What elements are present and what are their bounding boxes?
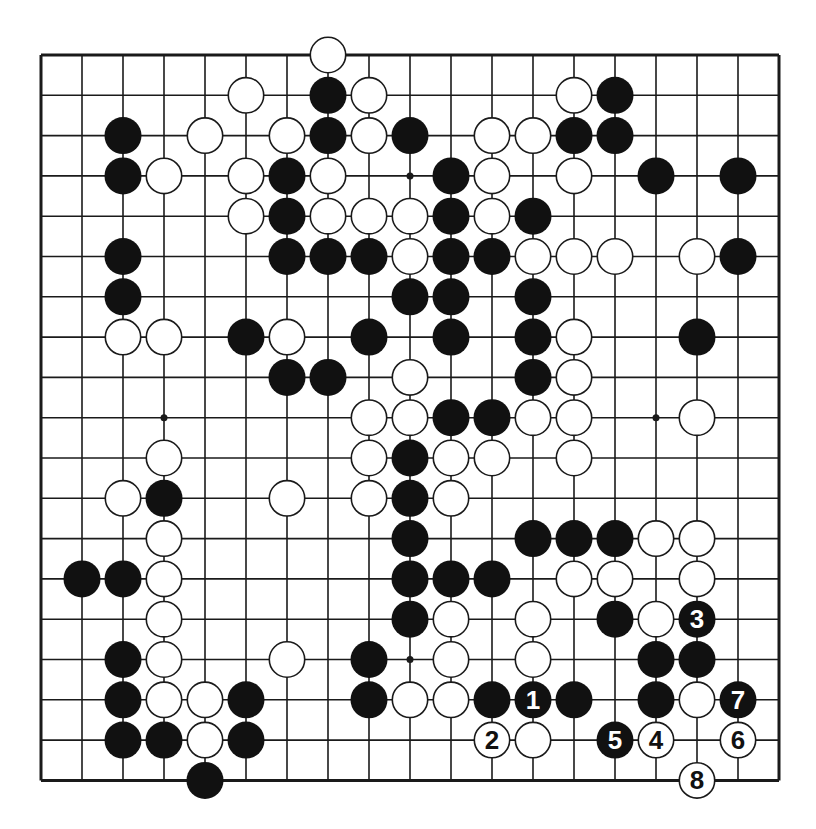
black-stone[interactable]: [105, 681, 142, 718]
white-stone[interactable]: [515, 239, 550, 274]
black-stone[interactable]: [433, 198, 470, 235]
black-stone[interactable]: [474, 560, 511, 597]
white-stone[interactable]: [433, 481, 468, 516]
white-stone[interactable]: [310, 199, 345, 234]
black-stone[interactable]: [392, 480, 429, 517]
black-stone[interactable]: [310, 117, 347, 154]
white-stone[interactable]: [474, 199, 509, 234]
black-stone[interactable]: [597, 601, 634, 638]
black-stone[interactable]: [146, 480, 183, 517]
white-stone[interactable]: [269, 319, 304, 354]
black-stone[interactable]: [351, 319, 388, 356]
white-stone[interactable]: [556, 319, 591, 354]
white-stone-move-4[interactable]: 4: [638, 722, 673, 757]
black-stone[interactable]: [105, 560, 142, 597]
black-stone[interactable]: [638, 157, 675, 194]
white-stone[interactable]: [146, 521, 181, 556]
white-stone[interactable]: [228, 158, 263, 193]
white-stone[interactable]: [556, 78, 591, 113]
black-stone[interactable]: [105, 641, 142, 678]
black-stone[interactable]: [556, 117, 593, 154]
black-stone[interactable]: [556, 520, 593, 557]
white-stone[interactable]: [392, 360, 427, 395]
white-stone[interactable]: [146, 158, 181, 193]
black-stone[interactable]: [720, 238, 757, 275]
white-stone-move-8[interactable]: 8: [679, 763, 714, 798]
black-stone[interactable]: [64, 560, 101, 597]
white-stone[interactable]: [146, 440, 181, 475]
white-stone[interactable]: [556, 158, 591, 193]
black-stone[interactable]: [597, 117, 634, 154]
black-stone[interactable]: [597, 520, 634, 557]
black-stone[interactable]: [515, 520, 552, 557]
white-stone[interactable]: [146, 561, 181, 596]
white-stone[interactable]: [392, 199, 427, 234]
white-stone[interactable]: [351, 118, 386, 153]
white-stone[interactable]: [433, 440, 468, 475]
white-stone[interactable]: [556, 440, 591, 475]
white-stone[interactable]: [146, 682, 181, 717]
white-stone[interactable]: [392, 239, 427, 274]
white-stone[interactable]: [474, 158, 509, 193]
black-stone[interactable]: [269, 359, 306, 396]
white-stone[interactable]: [187, 722, 222, 757]
white-stone[interactable]: [433, 642, 468, 677]
white-stone[interactable]: [392, 400, 427, 435]
black-stone[interactable]: [105, 117, 142, 154]
white-stone[interactable]: [351, 481, 386, 516]
black-stone[interactable]: [310, 238, 347, 275]
black-stone[interactable]: [351, 681, 388, 718]
black-stone[interactable]: [433, 278, 470, 315]
black-stone[interactable]: [433, 157, 470, 194]
white-stone[interactable]: [269, 642, 304, 677]
black-stone[interactable]: [392, 520, 429, 557]
white-stone[interactable]: [433, 682, 468, 717]
white-stone[interactable]: [638, 521, 673, 556]
white-stone[interactable]: [146, 602, 181, 637]
black-stone[interactable]: [351, 238, 388, 275]
black-stone[interactable]: [269, 238, 306, 275]
black-stone[interactable]: [105, 722, 142, 759]
black-stone[interactable]: [474, 238, 511, 275]
black-stone[interactable]: [228, 681, 265, 718]
black-stone[interactable]: [515, 359, 552, 396]
white-stone[interactable]: [597, 239, 632, 274]
black-stone[interactable]: [638, 641, 675, 678]
black-stone[interactable]: [392, 601, 429, 638]
white-stone[interactable]: [556, 561, 591, 596]
black-stone[interactable]: [433, 238, 470, 275]
white-stone[interactable]: [351, 400, 386, 435]
black-stone[interactable]: [105, 157, 142, 194]
white-stone[interactable]: [556, 360, 591, 395]
black-stone[interactable]: [105, 238, 142, 275]
white-stone[interactable]: [515, 400, 550, 435]
black-stone[interactable]: [310, 77, 347, 114]
black-stone-move-5[interactable]: 5: [597, 722, 634, 759]
white-stone[interactable]: [351, 78, 386, 113]
black-stone[interactable]: [392, 278, 429, 315]
white-stone[interactable]: [556, 400, 591, 435]
white-stone[interactable]: [474, 118, 509, 153]
black-stone[interactable]: [187, 762, 224, 799]
black-stone[interactable]: [146, 722, 183, 759]
black-stone[interactable]: [556, 681, 593, 718]
black-stone[interactable]: [269, 198, 306, 235]
black-stone[interactable]: [351, 641, 388, 678]
white-stone[interactable]: [679, 239, 714, 274]
black-stone[interactable]: [269, 157, 306, 194]
white-stone[interactable]: [269, 118, 304, 153]
black-stone[interactable]: [597, 77, 634, 114]
black-stone[interactable]: [474, 681, 511, 718]
white-stone[interactable]: [515, 602, 550, 637]
white-stone[interactable]: [310, 37, 345, 72]
white-stone[interactable]: [351, 440, 386, 475]
white-stone[interactable]: [556, 239, 591, 274]
white-stone[interactable]: [515, 118, 550, 153]
black-stone[interactable]: [679, 641, 716, 678]
white-stone[interactable]: [269, 481, 304, 516]
black-stone[interactable]: [433, 399, 470, 436]
white-stone[interactable]: [433, 602, 468, 637]
white-stone[interactable]: [228, 78, 263, 113]
white-stone[interactable]: [474, 440, 509, 475]
black-stone[interactable]: [638, 681, 675, 718]
